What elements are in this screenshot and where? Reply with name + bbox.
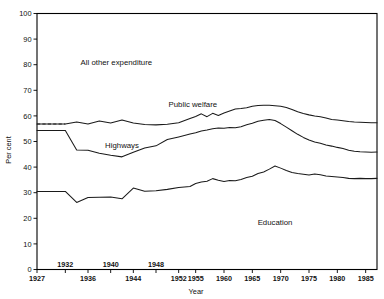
band-label-education: Education xyxy=(258,218,293,227)
x-tick-label-lower: 1985 xyxy=(358,274,374,283)
x-tick-label-lower: 1936 xyxy=(80,274,96,283)
x-axis-title: Year xyxy=(189,287,204,296)
series-lines xyxy=(37,105,377,202)
x-tick-label-lower: 1970 xyxy=(273,274,289,283)
y-tick-label: 80 xyxy=(23,60,31,69)
x-tick-label-lower: 1955 xyxy=(188,274,204,283)
band-label-public-welfare: Public welfare xyxy=(169,100,218,109)
y-tick-label: 70 xyxy=(23,86,31,95)
x-tick-label-upper: 1940 xyxy=(103,260,119,269)
x-tick-label-lower: 1952 xyxy=(171,274,187,283)
y-tick-label: 30 xyxy=(23,188,31,197)
x-axis-ticks: 1932194019481927193619441952195519601965… xyxy=(29,260,374,283)
x-tick-label-lower: 1965 xyxy=(244,274,260,283)
y-tick-label: 90 xyxy=(23,35,31,44)
x-tick-label-lower: 1960 xyxy=(216,274,232,283)
y-axis-title: Per cent xyxy=(4,136,13,164)
y-tick-label: 0 xyxy=(27,265,31,274)
x-tick-label-lower: 1980 xyxy=(329,274,345,283)
x-tick-label-upper: 1932 xyxy=(57,260,73,269)
x-tick-label-lower: 1975 xyxy=(301,274,317,283)
x-tick-label-upper: 1948 xyxy=(148,260,164,269)
band-annotations: All other expenditurePublic welfareHighw… xyxy=(81,58,293,227)
chart-container: Per cent Year 0102030405060708090100 193… xyxy=(0,0,384,299)
y-tick-label: 50 xyxy=(23,137,31,146)
y-tick-label: 10 xyxy=(23,240,31,249)
x-tick-label-lower: 1944 xyxy=(125,274,141,283)
series-line-education xyxy=(37,166,377,202)
y-tick-label: 20 xyxy=(23,214,31,223)
y-tick-label: 60 xyxy=(23,112,31,121)
x-tick-label-lower: 1927 xyxy=(29,274,45,283)
band-label-highways: Highways xyxy=(105,141,139,150)
band-label-all-other-expenditure: All other expenditure xyxy=(81,58,153,67)
plot-frame xyxy=(37,14,377,270)
y-tick-label: 40 xyxy=(23,163,31,172)
series-line-highways xyxy=(37,119,377,156)
y-axis-ticks: 0102030405060708090100 xyxy=(19,9,37,274)
y-tick-label: 100 xyxy=(19,9,31,18)
expenditure-distribution-chart: Per cent Year 0102030405060708090100 193… xyxy=(0,0,384,299)
